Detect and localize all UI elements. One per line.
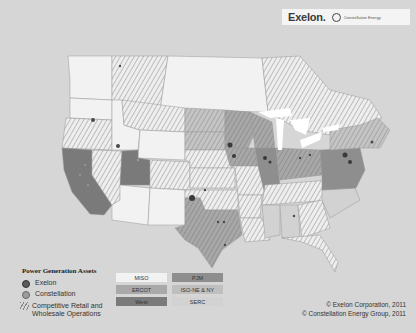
exelon-dot-icon [22, 280, 30, 288]
region-iso-ne-ny: ISO-NE & NY [172, 285, 223, 294]
region-west: West [116, 297, 167, 306]
copyright-constellation: © Constellation Energy Group, 2011 [302, 310, 406, 319]
legend-label: Exelon [35, 279, 56, 287]
legend-title: Power Generation Assets [22, 267, 97, 275]
legend-item-exelon: Exelon [22, 279, 56, 288]
region-legend: MISO PJM ERCOT ISO-NE & NY West SERC [116, 273, 223, 306]
region-pjm: PJM [172, 273, 223, 282]
legend-label: Competitive Retail and [32, 302, 102, 310]
region-serc: SERC [172, 297, 223, 306]
copyright-exelon: © Exelon Corporation, 2011 [302, 301, 406, 310]
constellation-dot-icon [22, 291, 30, 299]
legend-item-constellation: Constellation [22, 290, 75, 299]
region-miso: MISO [116, 273, 167, 282]
hatch-icon [20, 302, 29, 310]
copyright: © Exelon Corporation, 2011 © Constellati… [302, 301, 406, 318]
legend-label: Wholesale Operations [32, 310, 102, 318]
legend-label: Constellation [35, 290, 75, 298]
region-ercot: ERCOT [116, 285, 167, 294]
legend-item-competitive: Competitive Retail and Wholesale Operati… [20, 302, 102, 318]
